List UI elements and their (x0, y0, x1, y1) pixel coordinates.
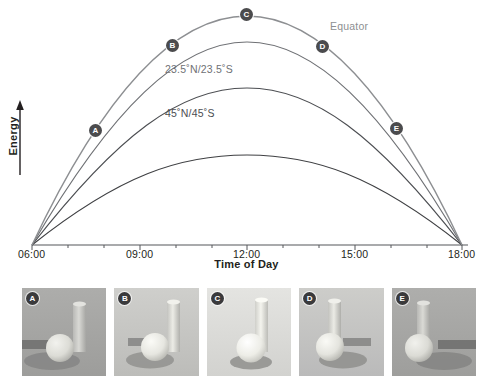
photo-badge-c: C (211, 292, 224, 305)
chart-plot (0, 0, 493, 282)
curve-marker-a: A (89, 124, 102, 137)
curve-23-5-lat (32, 42, 462, 245)
photo-panel-c: C (207, 288, 291, 376)
photo-badge-a: A (26, 292, 39, 305)
solar-energy-figure: 06:00 09:00 12:00 15:00 18:00 Time of Da… (0, 0, 493, 381)
curve-polar-lower (32, 155, 462, 245)
photo-badge-e: E (396, 292, 409, 305)
curve-marker-e: E (390, 122, 403, 135)
curve-marker-c: C (240, 8, 253, 21)
energy-vs-time-chart: 06:00 09:00 12:00 15:00 18:00 Time of Da… (0, 0, 493, 282)
y-axis-title: Energy (7, 101, 19, 171)
curve-marker-b: B (166, 39, 179, 52)
curve-label-tropic: 23.5˚N/23.5˚S (165, 63, 233, 75)
photo-panel-a: A (22, 288, 106, 376)
curve-label-mid-latitude: 45˚N/45˚S (165, 107, 215, 119)
photo-panel-e: E (392, 288, 476, 376)
shadow-photo-strip: A (22, 288, 476, 376)
photo-panel-d: D (299, 288, 383, 376)
curve-label-equator: Equator (330, 20, 368, 32)
curve-45-lat (32, 88, 462, 245)
photo-panel-b: B (114, 288, 198, 376)
x-axis-title: Time of Day (0, 258, 493, 270)
curve-marker-d: D (316, 40, 329, 53)
